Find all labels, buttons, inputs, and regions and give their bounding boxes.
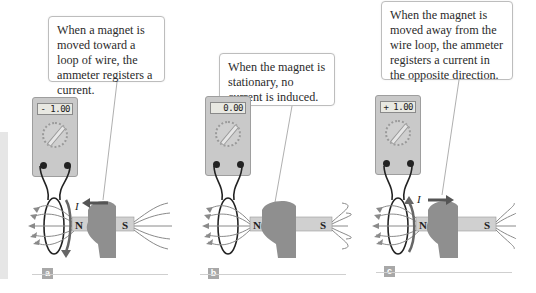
apparatus-c: N S I	[0, 0, 536, 293]
north-label-c: N	[419, 219, 427, 231]
current-symbol-c: I	[416, 193, 422, 205]
panel-rule-c	[376, 272, 512, 273]
south-label-c: S	[484, 219, 490, 231]
